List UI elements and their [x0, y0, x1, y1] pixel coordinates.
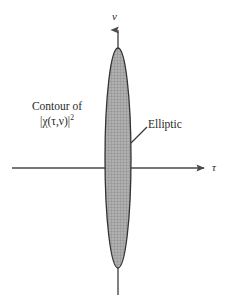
vertical-axis-label: ν [112, 10, 117, 23]
contour-caption-line-1: Contour of [18, 100, 96, 113]
elliptic-contour-region [105, 48, 131, 268]
elliptic-leader-line [131, 127, 147, 143]
diagram-canvas [0, 0, 227, 307]
ambiguity-function-exponent: 2 [70, 113, 74, 122]
contour-caption: Contour of |χ(τ,ν)|2 [18, 100, 96, 128]
figure-container: ν τ Contour of |χ(τ,ν)|2 Elliptic [0, 0, 227, 307]
horizontal-axis-label: τ [212, 161, 216, 174]
contour-caption-line-2: |χ(τ,ν)|2 [18, 115, 96, 128]
ambiguity-function-expression: |χ(τ,ν)| [40, 115, 70, 127]
elliptic-annotation-label: Elliptic [148, 118, 182, 131]
